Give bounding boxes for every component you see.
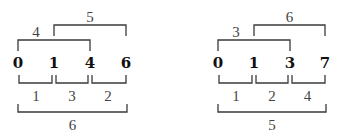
gap-label: 2: [104, 88, 112, 104]
gap-bracket: [19, 75, 52, 83]
gap-label: 4: [304, 88, 312, 104]
total-label: 6: [69, 117, 77, 133]
point-label: 1: [249, 54, 259, 72]
ruler-diagram-1: 0146451326: [13, 9, 131, 133]
gap-label: 2: [268, 88, 276, 104]
point-label: 4: [85, 54, 95, 72]
top-bracket: [54, 25, 126, 36]
top-bracket: [254, 25, 325, 36]
total-bracket: [18, 104, 127, 112]
gap-bracket: [219, 75, 252, 83]
top-bracket-label: 4: [32, 24, 40, 40]
gap-bracket: [56, 75, 88, 83]
diagram-svg: 01464513260137361245: [0, 0, 346, 136]
top-bracket-label: 5: [86, 9, 94, 25]
point-label: 7: [320, 54, 330, 72]
gap-label: 1: [32, 88, 40, 104]
gap-bracket: [92, 75, 126, 83]
gap-bracket: [256, 75, 288, 83]
point-label: 1: [49, 54, 59, 72]
ruler-diagram-canvas: 01464513260137361245: [0, 0, 346, 136]
top-bracket: [218, 40, 290, 51]
gap-label: 1: [232, 88, 240, 104]
top-bracket-label: 3: [232, 24, 240, 40]
gap-label: 3: [68, 88, 76, 104]
point-label: 0: [13, 54, 23, 72]
point-label: 0: [213, 54, 223, 72]
top-bracket-label: 6: [286, 9, 294, 25]
total-bracket: [218, 104, 326, 112]
ruler-diagram-2: 0137361245: [213, 9, 330, 133]
point-label: 3: [285, 54, 295, 72]
gap-bracket: [292, 75, 325, 83]
top-bracket: [18, 40, 90, 51]
total-label: 5: [268, 117, 276, 133]
point-label: 6: [121, 54, 131, 72]
